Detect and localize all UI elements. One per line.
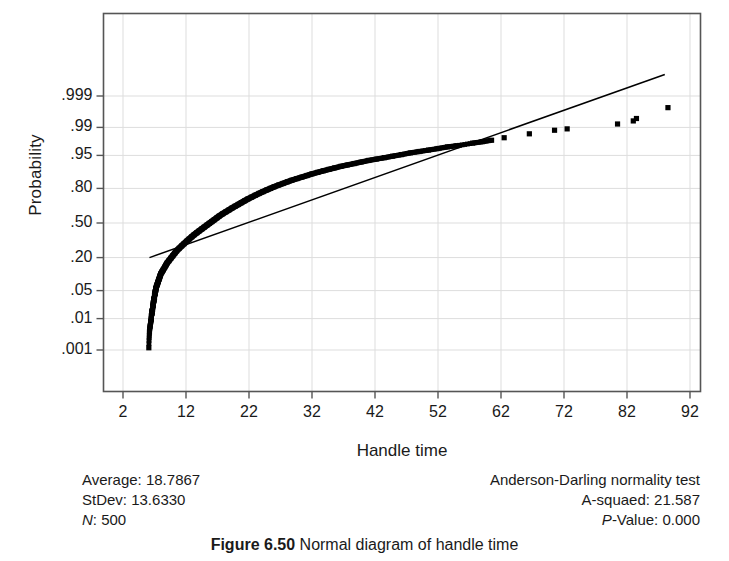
descriptive-statistics-block: Average: 18.7867 StDev: 13.6330 N: 500 (82, 470, 200, 530)
stat-a-squared-value: 21.587 (654, 491, 700, 508)
y-tick-label: .50 (70, 213, 92, 231)
x-tick-label: 22 (224, 403, 274, 421)
stat-stdev-value: 13.6330 (131, 491, 185, 508)
stat-a-squared: A-squaed: 21.587 (490, 490, 700, 510)
anderson-darling-block: Anderson-Darling normality test A-squaed… (490, 470, 700, 530)
stat-p-value: P-Value: 0.000 (490, 510, 700, 530)
figure-caption-label: Figure 6.50 (211, 536, 295, 553)
y-tick-label: .95 (70, 145, 92, 163)
stat-p-value-label: P (602, 511, 612, 528)
stat-average-label: Average: (82, 471, 142, 488)
figure-caption: Figure 6.50 Normal diagram of handle tim… (0, 536, 729, 554)
x-tick-label: 12 (161, 403, 211, 421)
x-tick-label: 62 (476, 403, 526, 421)
stat-a-squared-label: A-squaed: (582, 491, 650, 508)
y-tick-label: .01 (70, 309, 92, 327)
y-axis-title: Probability (26, 95, 46, 255)
normality-test-title: Anderson-Darling normality test (490, 470, 700, 490)
y-tick-label: .99 (70, 117, 92, 135)
y-tick-label: .80 (70, 178, 92, 196)
x-tick-label: 72 (539, 403, 589, 421)
x-tick-label: 2 (98, 403, 148, 421)
x-tick-label: 52 (413, 403, 463, 421)
x-axis-title: Handle time (103, 441, 701, 461)
stat-sample-size-label: N (82, 511, 93, 528)
stat-sample-size-value: : 500 (93, 511, 126, 528)
y-tick-label: .05 (70, 281, 92, 299)
x-tick-label: 32 (287, 403, 337, 421)
y-tick-label: .20 (70, 248, 92, 266)
y-tick-label: .001 (61, 340, 92, 358)
stat-p-value-value: -Value: 0.000 (612, 511, 700, 528)
x-tick-label: 82 (602, 403, 652, 421)
y-tick-label: .999 (61, 86, 92, 104)
stat-average-value: 18.7867 (146, 471, 200, 488)
stat-average: Average: 18.7867 (82, 470, 200, 490)
stat-stdev: StDev: 13.6330 (82, 490, 200, 510)
stat-stdev-label: StDev: (82, 491, 127, 508)
figure-caption-text: Normal diagram of handle time (300, 536, 519, 553)
normal-probability-plot-figure: Probability Handle time .999.99.95.80.50… (0, 0, 729, 561)
x-tick-label: 42 (350, 403, 400, 421)
stat-sample-size: N: 500 (82, 510, 200, 530)
x-tick-label: 92 (665, 403, 715, 421)
